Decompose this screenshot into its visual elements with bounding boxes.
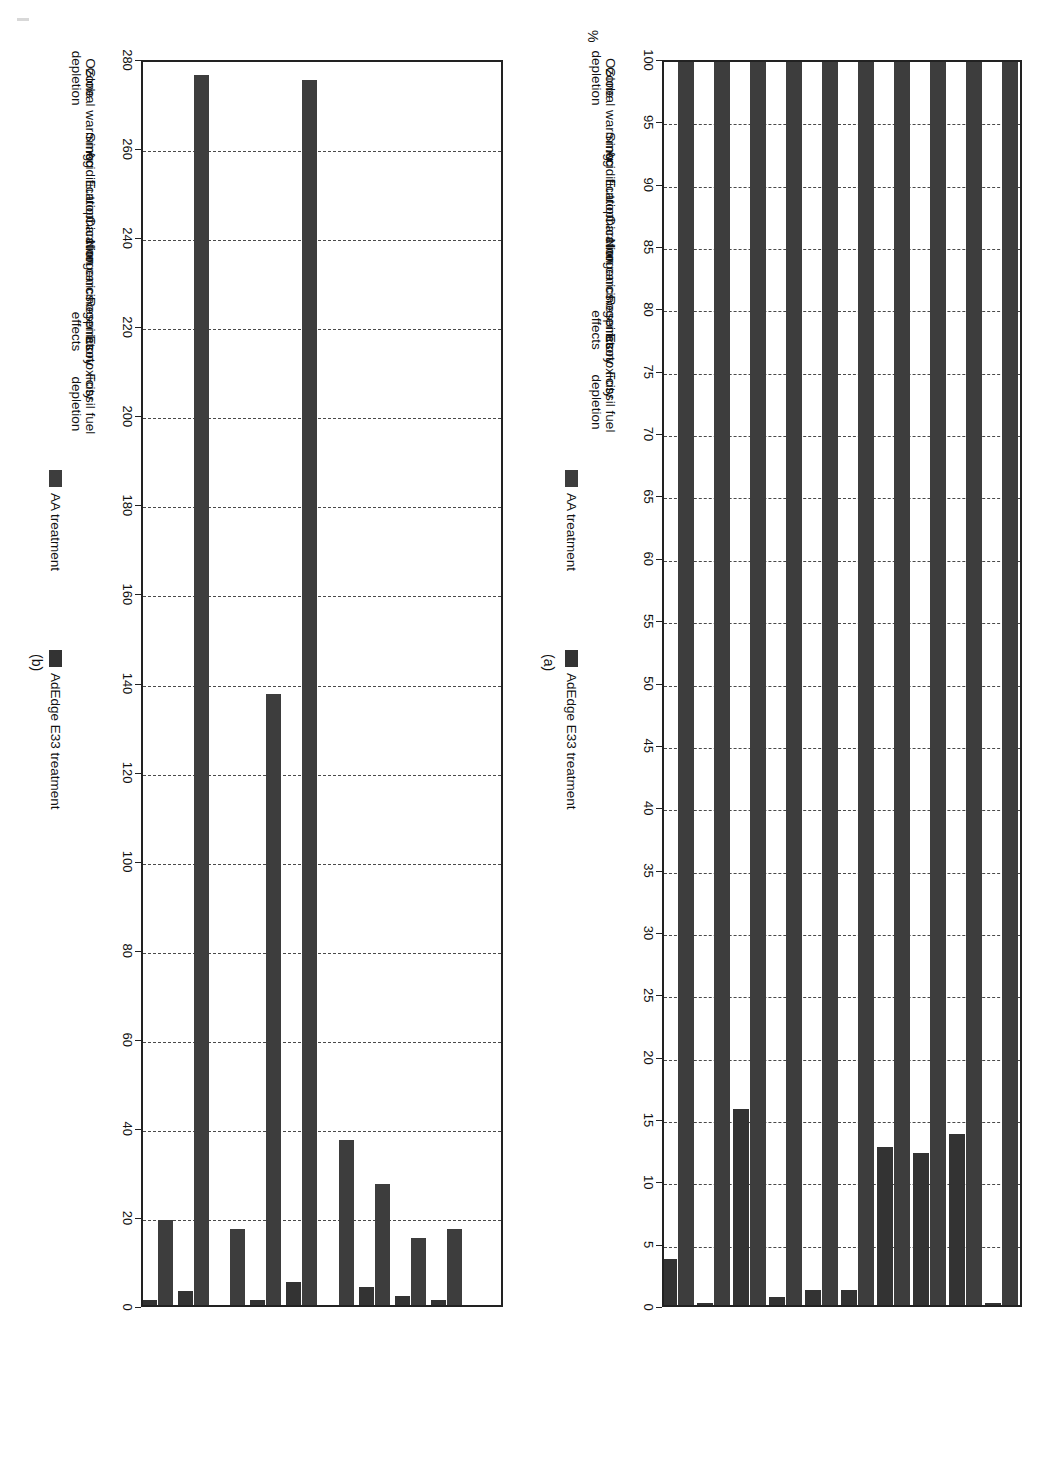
axis-tick [656,1307,662,1308]
bar [214,1305,229,1307]
y-axis-a: 1009590858075706560555045403530252015105… [622,0,662,1470]
bar [787,62,803,1307]
subcaption-a: (a) [541,654,557,671]
legend-label: AdEdge E33 treatment [564,673,579,810]
bar [859,62,875,1307]
axis-tick-label: 100 [121,851,134,873]
axis-tick [656,247,662,248]
axis-tick [656,1120,662,1121]
axis-tick [135,1307,141,1308]
bar [323,1305,338,1307]
bar [823,62,839,1307]
axis-tick-label: 45 [642,739,655,753]
legend-swatch [49,470,62,487]
axis-tick-label: 100 [642,49,655,71]
bar [447,1229,462,1307]
bar [395,1296,410,1307]
axis-tick-label: 40 [121,1122,134,1136]
axis-tick [656,1058,662,1059]
bar [250,1300,265,1307]
axis-tick-label: 10 [642,1175,655,1189]
axis-tick [656,808,662,809]
axis-tick [135,773,141,774]
axis-tick [656,122,662,123]
legend-item: AdEdge E33 treatment [564,650,579,810]
axis-tick [135,1040,141,1041]
axis-tick-label: 20 [121,1211,134,1225]
category-label: Fossil fueldepletion [589,357,617,447]
axis-tick-label: 200 [121,405,134,427]
subcaption-b: (b) [29,654,45,671]
axis-tick-label: 60 [642,552,655,566]
bar [286,1282,301,1307]
axis-tick-label: 70 [642,427,655,441]
scan-speck [17,18,29,21]
legend-swatch [565,470,578,487]
bar [931,62,947,1307]
legend-label: AA treatment [564,493,579,571]
bar [158,1220,173,1307]
legend-swatch [49,650,62,667]
bar [986,1303,1002,1307]
axis-tick [656,933,662,934]
axis-tick-label: 30 [642,926,655,940]
legend-item: AA treatment [564,470,579,571]
axis-tick [135,1218,141,1219]
bar [967,62,983,1307]
axis-tick [656,746,662,747]
axis-tick-label: 160 [121,584,134,606]
bar [431,1300,446,1307]
axis-tick [656,684,662,685]
axis-tick-label: 240 [121,227,134,249]
axis-tick [656,185,662,186]
bar [715,62,731,1307]
panel-a: 1009590858075706560555045403530252015105… [525,0,1049,1470]
axis-tick [135,951,141,952]
axis-tick [135,505,141,506]
legend-item: AA treatment [48,470,63,571]
figure-page: 1009590858075706560555045403530252015105… [0,0,1049,1470]
axis-tick-label: 20 [642,1050,655,1064]
legend-swatch [565,650,578,667]
bar [411,1238,426,1307]
axis-tick [135,594,141,595]
axis-tick-label: 60 [121,1033,134,1047]
axis-tick-label: 15 [642,1113,655,1127]
axis-tick [656,995,662,996]
axis-tick [656,621,662,622]
axis-tick [656,871,662,872]
category-label: Fossil fueldepletion [69,359,97,449]
bar [878,1147,894,1307]
bar [806,1290,822,1307]
axis-tick-label: 220 [121,316,134,338]
bar [662,1259,678,1307]
axis-tick [656,1182,662,1183]
bar [751,62,767,1307]
axis-tick-label: 65 [642,489,655,503]
axis-tick [135,684,141,685]
axis-tick [656,372,662,373]
axis-tick [135,862,141,863]
plot-area-a [662,60,1022,1307]
axis-tick [656,309,662,310]
axis-tick [656,434,662,435]
axis-tick-label: 85 [642,240,655,254]
bar [895,62,911,1307]
legend-item: AdEdge E33 treatment [48,650,63,810]
bar [142,1300,157,1307]
bar [339,1140,354,1307]
bar [375,1184,390,1307]
axis-tick [135,60,141,61]
axis-tick-label: 120 [121,762,134,784]
axis-tick [656,1245,662,1246]
axis-tick [135,327,141,328]
axis-tick-label: 25 [642,988,655,1002]
bar [1003,62,1019,1307]
bar [734,1109,750,1307]
axis-tick-label: 140 [121,673,134,695]
axis-tick-label: 80 [121,943,134,957]
bar [359,1287,374,1307]
bar [914,1153,930,1307]
axis-tick-label: 50 [642,676,655,690]
panel-b: 280260240220200180160140120100806040200 … [0,0,525,1470]
